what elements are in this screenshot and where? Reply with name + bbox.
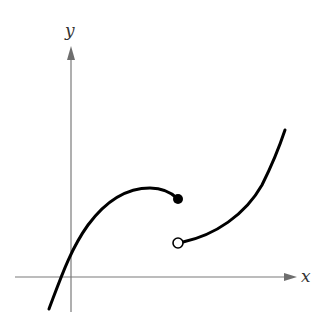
left-curve — [49, 188, 178, 309]
open-point — [173, 238, 183, 248]
y-axis-label: y — [64, 20, 75, 40]
right-curve — [183, 130, 285, 242]
x-axis-label: x — [301, 266, 311, 286]
closed-point — [173, 194, 183, 204]
graph: x y — [0, 0, 327, 323]
x-axis — [15, 273, 297, 281]
y-axis — [67, 46, 75, 312]
x-axis-arrow-icon — [284, 273, 297, 281]
y-axis-arrow-icon — [67, 46, 75, 60]
